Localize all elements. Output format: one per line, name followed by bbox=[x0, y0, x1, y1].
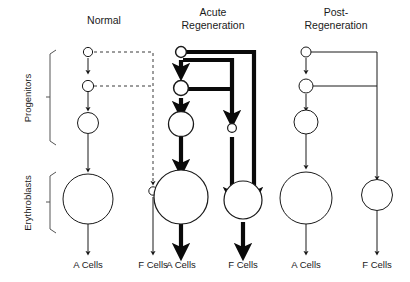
post-branch-upper bbox=[311, 52, 377, 172]
acute-cell-stage-3 bbox=[169, 112, 194, 137]
bracket-progenitors bbox=[46, 50, 56, 145]
acute-cell-stage-2 bbox=[174, 81, 189, 96]
column-header-acute-line2: Regeneration bbox=[181, 19, 244, 31]
post-cell-stage-2 bbox=[299, 79, 313, 93]
column-header-post-line1: Post- bbox=[324, 6, 349, 18]
column-normal: A Cells F Cells bbox=[63, 47, 168, 270]
footer-label-post-a-cells: A Cells bbox=[291, 259, 321, 270]
post-cell-stage-1 bbox=[301, 47, 311, 57]
post-cell-stage-3 bbox=[294, 110, 318, 134]
normal-cell-erythroblast bbox=[63, 174, 113, 224]
column-acute-regeneration: A Cells F Cells bbox=[154, 47, 262, 270]
normal-cell-stage-1 bbox=[83, 47, 92, 56]
acute-cell-erythroblast bbox=[154, 170, 208, 224]
bracket-erythroblasts bbox=[46, 172, 56, 233]
row-label-erythroblasts: Erythroblasts bbox=[22, 175, 33, 231]
footer-label-acute-f-cells: F Cells bbox=[228, 259, 258, 270]
footer-label-post-f-cells: F Cells bbox=[362, 259, 392, 270]
diagram-canvas: Normal Acute Regeneration Post- Regenera… bbox=[0, 0, 410, 282]
footer-label-acute-a-cells: A Cells bbox=[166, 259, 196, 270]
footer-label-normal-a-cells: A Cells bbox=[73, 259, 103, 270]
acute-cell-stage-1 bbox=[176, 47, 187, 58]
acute-branch-inner-upper bbox=[183, 60, 232, 112]
post-cell-f-erythroblast bbox=[362, 180, 393, 211]
normal-cell-stage-2 bbox=[82, 80, 93, 91]
column-header-acute-line1: Acute bbox=[200, 6, 227, 18]
row-label-progenitors: Progenitors bbox=[22, 73, 33, 122]
footer-label-normal-f-cells: F Cells bbox=[138, 259, 168, 270]
acute-cell-f-erythroblast bbox=[224, 181, 262, 219]
normal-cell-stage-3 bbox=[78, 113, 99, 134]
acute-cell-f-progenitor bbox=[228, 124, 237, 133]
post-cell-erythroblast bbox=[280, 172, 332, 224]
column-header-normal: Normal bbox=[87, 14, 121, 26]
normal-branch-upper bbox=[94, 52, 153, 178]
column-header-post-line2: Regeneration bbox=[304, 19, 367, 31]
column-post-regeneration: A Cells F Cells bbox=[280, 47, 393, 270]
diagram-figure: Normal Acute Regeneration Post- Regenera… bbox=[0, 0, 410, 282]
